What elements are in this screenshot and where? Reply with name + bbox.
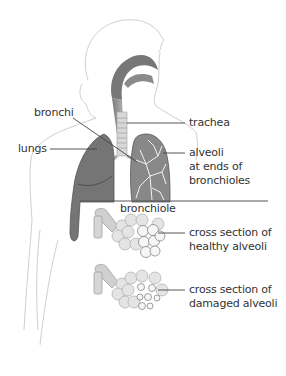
anatomy-illustration xyxy=(0,0,286,376)
right-lung-illustration xyxy=(131,134,171,202)
label-healthy-line1: cross section of xyxy=(189,226,272,240)
label-alveoli-line3: bronchioles xyxy=(189,174,250,188)
label-damaged-line2: damaged alveoli xyxy=(189,297,277,311)
label-damaged-line1: cross section of xyxy=(189,283,272,297)
label-trachea: trachea xyxy=(189,116,230,130)
label-bronchi: bronchi xyxy=(34,106,74,120)
leader-lines-lower xyxy=(158,233,185,290)
label-bronchiole: bronchiole xyxy=(120,202,176,216)
damaged-alveoli-illustration xyxy=(94,264,168,309)
label-alveoli-line1: alveoli xyxy=(189,146,224,160)
label-lungs: lungs xyxy=(18,142,47,156)
label-healthy-line2: healthy alveoli xyxy=(189,240,267,254)
label-alveoli-line2: at ends of xyxy=(189,160,242,174)
respiratory-diagram: bronchi lungs trachea alveoli at ends of… xyxy=(0,0,286,376)
